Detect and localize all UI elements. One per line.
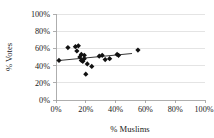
chart-canvas: 100% 80% 60% 40% 20% 0% 0% 20% 40% 60% 8…	[0, 0, 214, 138]
y-tick-label-60: 60%	[35, 44, 50, 53]
x-tick-label-20: 20%	[78, 105, 93, 114]
x-tick-label-80: 80%	[168, 105, 183, 114]
x-tick-label-60: 60%	[138, 105, 153, 114]
y-axis-title: % Votes	[4, 42, 14, 71]
x-tick-label-100: 100%	[194, 105, 213, 114]
x-tick-label-0: 0%	[51, 105, 62, 114]
x-tick-label-40: 40%	[108, 105, 123, 114]
y-tick-labels: 100% 80% 60% 40% 20% 0%	[31, 10, 50, 105]
y-tick-label-40: 40%	[35, 62, 50, 71]
y-tickmarks	[53, 14, 56, 100]
y-tick-label-20: 20%	[35, 79, 50, 88]
scatter-chart: 100% 80% 60% 40% 20% 0% 0% 20% 40% 60% 8…	[0, 0, 214, 138]
y-tick-label-80: 80%	[35, 27, 50, 36]
y-tick-label-100: 100%	[31, 10, 50, 19]
x-axis-title: % Muslims	[110, 124, 150, 134]
x-tick-labels: 0% 20% 40% 60% 80% 100%	[51, 105, 214, 114]
y-tick-label-0: 0%	[39, 96, 50, 105]
x-tickmarks	[56, 100, 205, 103]
